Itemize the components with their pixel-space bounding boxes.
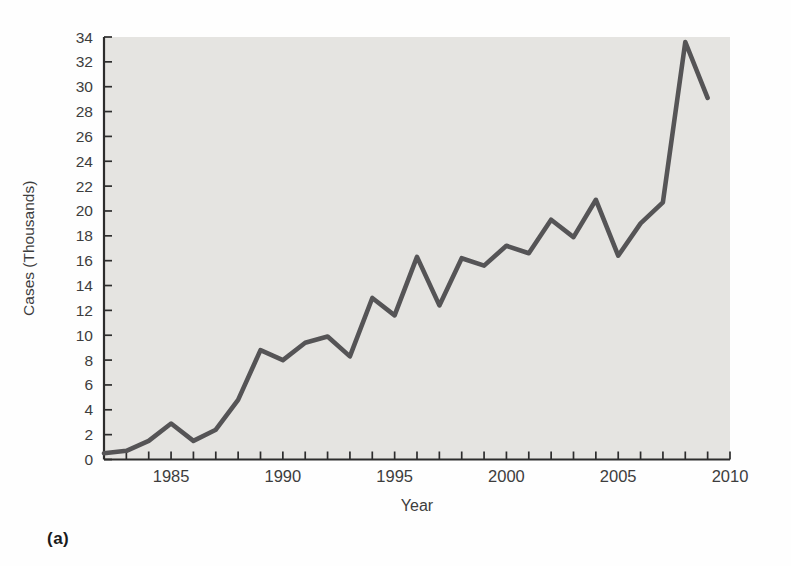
y-tick-label: 24: [76, 153, 94, 170]
y-tick-label: 20: [76, 202, 94, 219]
cases-by-year-line-chart: 1985199019952000200520100246810121416182…: [0, 0, 791, 566]
x-axis-title: Year: [401, 497, 434, 514]
y-tick-label: 30: [76, 78, 94, 95]
y-tick-label: 16: [76, 252, 93, 269]
y-tick-label: 18: [76, 227, 93, 244]
x-tick-label: 2000: [488, 467, 525, 485]
y-tick-label: 28: [76, 103, 93, 120]
y-tick-label: 10: [76, 327, 94, 344]
x-tick-label: 1995: [376, 467, 413, 485]
y-axis-title: Cases (Thousands): [20, 181, 37, 316]
y-tick-label: 22: [76, 178, 93, 195]
x-tick-label: 1990: [264, 467, 301, 485]
y-tick-label: 8: [84, 352, 93, 369]
y-tick-label: 6: [84, 376, 93, 393]
y-tick-label: 2: [84, 426, 93, 443]
y-tick-label: 0: [84, 451, 93, 468]
plot-area: [104, 37, 730, 460]
y-tick-label: 34: [76, 29, 94, 46]
figure-panel-a: 1985199019952000200520100246810121416182…: [0, 0, 791, 566]
y-tick-label: 12: [76, 302, 93, 319]
figure-letter-label: (a): [47, 529, 69, 549]
x-tick-label: 1985: [153, 467, 190, 485]
y-tick-label: 32: [76, 53, 93, 70]
x-tick-label: 2010: [712, 467, 749, 485]
y-tick-label: 14: [76, 277, 94, 294]
y-tick-label: 4: [84, 401, 93, 418]
x-tick-label: 2005: [600, 467, 637, 485]
y-tick-label: 26: [76, 128, 93, 145]
